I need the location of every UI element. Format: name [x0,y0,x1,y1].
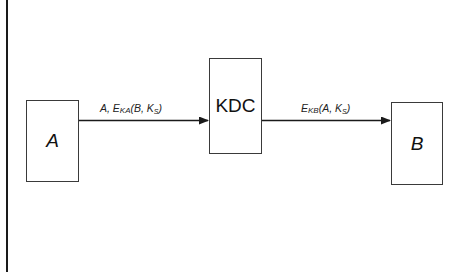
node-kdc: KDC [209,58,262,154]
edge-label-mid: (A, K [319,102,342,114]
edge-label-key-subscript: KB [308,106,319,115]
edge-label-prefix: E [301,102,308,114]
edge-label-key-subscript: KA [120,106,131,115]
edge-label-kdc-to-b: EKB(A, KS) [301,102,350,115]
edge-label-prefix: A, E [100,102,120,114]
edge-label-suffix: ) [347,102,351,114]
node-b-label: B [411,133,424,155]
node-a-label: A [46,130,59,152]
edge-label-suffix: ) [159,102,163,114]
edge-label-mid: (B, K [131,102,154,114]
node-b: B [391,102,443,185]
edge-label-a-to-kdc: A, EKA(B, KS) [100,102,162,115]
node-a: A [26,100,79,182]
node-kdc-label: KDC [215,95,255,117]
